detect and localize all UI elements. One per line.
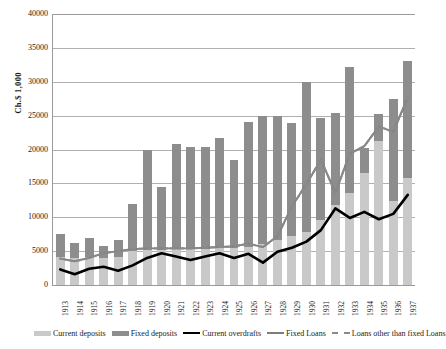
x-axis-tick-label: 1936 [395, 301, 403, 316]
legend-swatch-icon [183, 332, 200, 335]
plot-area [52, 14, 415, 286]
legend-swatch-icon [332, 332, 350, 334]
x-axis-tick-label: 1919 [149, 301, 157, 316]
y-axis-tick-label: 20000 [4, 146, 48, 154]
y-axis-tick-label: 25000 [4, 112, 48, 120]
x-axis-tick-label: 1915 [91, 301, 99, 316]
x-axis-tick-label: 1924 [222, 301, 230, 316]
x-axis-tick-label: 1926 [251, 301, 259, 316]
y-axis-tick-label: 40000 [4, 10, 48, 18]
x-axis-tick-label: 1913 [62, 301, 70, 316]
line-fixed-loans [60, 97, 408, 261]
y-axis-tick-label: 5000 [4, 247, 48, 255]
legend-item[interactable]: Fixed Loans [267, 329, 326, 338]
legend-swatch-icon [34, 331, 51, 336]
x-axis-tick-label: 1920 [164, 301, 172, 316]
x-axis-tick-label: 1930 [309, 301, 317, 316]
x-axis-tick-label: 1927 [265, 301, 273, 316]
legend-label: Current deposits [53, 329, 106, 338]
x-axis-tick-label: 1922 [193, 301, 201, 316]
x-axis-tick-label: 1914 [77, 301, 85, 316]
x-axis-tick-label: 1925 [236, 301, 244, 316]
x-axis-tick-label: 1917 [120, 301, 128, 316]
legend-item[interactable]: Fixed deposits [112, 329, 177, 338]
legend-item[interactable]: Loans other than fixed Loans [332, 329, 446, 338]
x-axis-tick-label: 1923 [207, 301, 215, 316]
x-axis-tick-label: 1929 [294, 301, 302, 316]
y-axis-tick-label: 35000 [4, 44, 48, 52]
y-axis-tick-label: 0 [4, 281, 48, 289]
legend-item[interactable]: Current overdrafts [183, 329, 261, 338]
x-axis-tick-label: 1935 [381, 301, 389, 316]
legend-label: Fixed Loans [286, 329, 326, 338]
legend-label: Loans other than fixed Loans [352, 329, 446, 338]
chart-legend: Current depositsFixed depositsCurrent ov… [34, 325, 429, 341]
y-axis-tick-label: 30000 [4, 78, 48, 86]
x-axis-tick-label: 1931 [323, 301, 331, 316]
x-axis-tick-label: 1933 [352, 301, 360, 316]
y-axis-tick-label: 15000 [4, 179, 48, 187]
line-series-group [53, 14, 415, 285]
legend-item[interactable]: Current deposits [34, 329, 106, 338]
x-axis-tick-label: 1937 [410, 301, 418, 316]
x-axis-tick-label: 1918 [135, 301, 143, 316]
x-axis-tick-label: 1921 [178, 301, 186, 316]
x-axis-tick-label: 1934 [367, 301, 375, 316]
legend-swatch-icon [112, 331, 129, 336]
legend-swatch-icon [267, 332, 284, 335]
x-axis-tick-label: 1928 [280, 301, 288, 316]
x-axis-tick-labels: 1913191419151916191719181919192019211922… [52, 286, 414, 320]
legend-label: Current overdrafts [202, 329, 261, 338]
x-axis-tick-label: 1932 [338, 301, 346, 316]
y-axis-tick-labels: 4000035000300002500020000150001000050000 [0, 0, 48, 349]
y-axis-tick-label: 10000 [4, 213, 48, 221]
line-loans-other-than-fixed-loans [60, 97, 408, 261]
legend-label: Fixed deposits [131, 329, 177, 338]
line-current-overdrafts [60, 195, 408, 274]
x-axis-tick-label: 1916 [106, 301, 114, 316]
